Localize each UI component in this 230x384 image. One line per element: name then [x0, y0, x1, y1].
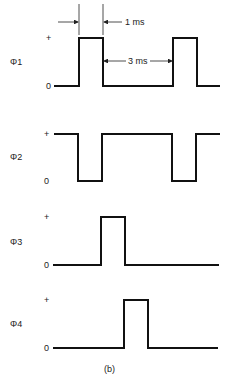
waveform-phi2 [54, 134, 220, 181]
high-level-label: + [44, 212, 49, 222]
high-level-label: + [44, 295, 49, 305]
pulse-width-label: 1 ms [125, 17, 145, 27]
signal-label-phi1: Φ1 [10, 57, 22, 67]
signal-phi4: + Φ4 0 [10, 295, 218, 353]
low-level-label: 0 [44, 260, 49, 270]
signal-phi2: + Φ2 0 [10, 129, 220, 186]
signal-label-phi3: Φ3 [10, 237, 22, 247]
period-gap-label: 3 ms [128, 56, 148, 66]
signal-phi1: + Φ1 0 3 ms [10, 33, 220, 91]
low-level-label: 0 [46, 81, 51, 91]
figure-caption: (b) [104, 364, 115, 374]
period-gap-dimension: 3 ms [104, 56, 172, 66]
high-level-label: + [44, 129, 49, 139]
high-level-label: + [46, 33, 51, 43]
waveform-phi4 [53, 300, 218, 348]
timing-diagram: 1 ms + Φ1 0 3 ms + Φ2 0 + Φ3 0 + Φ4 0 (b… [0, 0, 230, 384]
waveform-phi3 [53, 217, 219, 265]
low-level-label: 0 [44, 176, 49, 186]
pulse-width-dimension: 1 ms [58, 4, 145, 35]
signal-label-phi4: Φ4 [10, 319, 22, 329]
low-level-label: 0 [44, 343, 49, 353]
signal-phi3: + Φ3 0 [10, 212, 219, 270]
signal-label-phi2: Φ2 [10, 152, 22, 162]
